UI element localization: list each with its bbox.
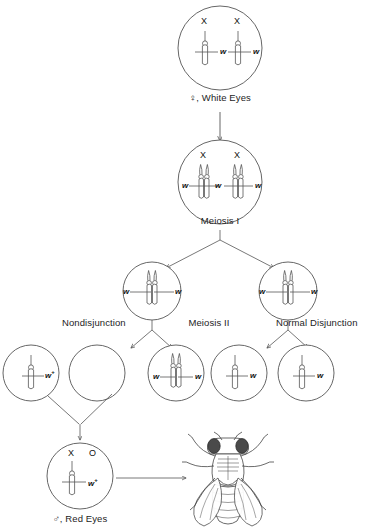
diagram-canvas: X X w w ♀, White Eyes X X w w w Meiosis … (0, 0, 368, 532)
meiosis-one-chromosome-label-2: X (234, 150, 240, 160)
parent-chromosome-label-2: X (234, 16, 240, 26)
gamete-3-allele-1: w (153, 372, 159, 381)
meiosis-one-allele-3: w (255, 181, 261, 190)
parent-label: ♀, White Eyes (189, 92, 251, 103)
parent-chromosome-label-1: X (201, 16, 207, 26)
normal-disjunction-label: Normal Disjunction (276, 317, 358, 328)
diagram-vector-layer (0, 0, 368, 532)
gamete-3-allele-2: w (195, 372, 201, 381)
meiosis-one-allele-1: w (182, 181, 188, 190)
secondary-right-allele-1: w (259, 287, 265, 296)
meiosis-one-allele-2: w (215, 181, 221, 190)
gamete-5-allele: w (317, 371, 323, 380)
zygote-chromosome-label-2: O (89, 448, 96, 458)
zygote-chromosome-label-1: X (68, 448, 74, 458)
parent-allele-1: w (220, 47, 226, 56)
zygote-allele: w+ (88, 477, 98, 488)
offspring-label: ♂, Red Eyes (53, 513, 108, 524)
meiosis-one-chromosome-label-1: X (200, 150, 206, 160)
gamete-1-allele: w+ (45, 369, 55, 380)
meiosis-one-label: Meiosis I (201, 215, 239, 226)
meiosis-two-label: Meiosis II (188, 317, 229, 328)
nondisjunction-label: Nondisjunction (62, 317, 126, 328)
parent-allele-2: w (253, 47, 259, 56)
secondary-left-allele-2: w (175, 287, 181, 296)
secondary-right-allele-2: w (311, 287, 317, 296)
gamete-4-allele: w (250, 371, 256, 380)
secondary-left-allele-1: w (123, 287, 129, 296)
